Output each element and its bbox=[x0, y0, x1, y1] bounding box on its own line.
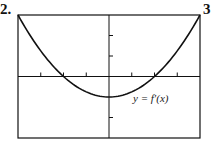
axes bbox=[18, 15, 200, 138]
curve-label: y = f′(x) bbox=[133, 92, 168, 104]
derivative-graph bbox=[0, 0, 212, 151]
